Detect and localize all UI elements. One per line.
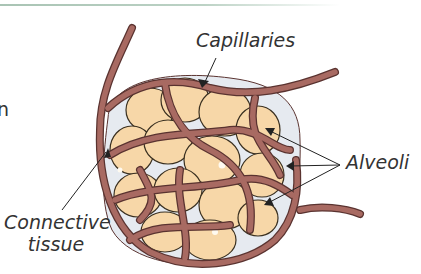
label-connective-line2: tissue [4,233,108,255]
label-connective-tissue: Connective tissue [4,211,108,255]
label-capillaries: Capillaries [196,29,295,51]
label-alveoli: Alveoli [346,151,409,173]
label-connective-line1: Connective [4,211,108,233]
connective-leader-line [62,152,106,210]
